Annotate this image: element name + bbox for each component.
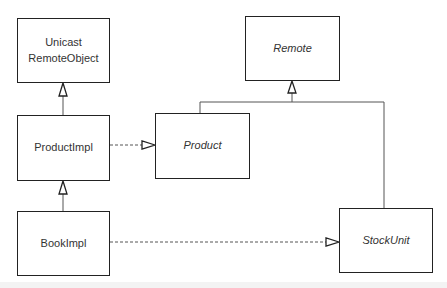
interface-remote[interactable]: Remote [245,16,340,81]
interface-product[interactable]: Product [155,113,250,179]
class-label-line-1: Unicast [28,35,98,51]
class-unicast-remote-object[interactable]: Unicast RemoteObject [17,18,110,83]
class-label: ProductImpl [34,140,93,156]
class-label: Unicast RemoteObject [28,35,98,67]
realization-bookimpl-to-stockunit [110,238,339,246]
class-label-line-2: RemoteObject [28,51,98,67]
bottom-margin [0,282,447,288]
class-label: Product [184,138,222,154]
generalization-productimpl-to-unicast [59,83,67,115]
generalization-bookimpl-to-productimpl [59,181,67,211]
realization-productimpl-to-product [110,141,155,149]
interface-stockunit[interactable]: StockUnit [339,208,433,273]
class-bookimpl[interactable]: BookImpl [17,211,110,276]
class-label: Remote [273,41,312,57]
class-label: StockUnit [362,233,409,249]
class-label: BookImpl [41,236,87,252]
class-productimpl[interactable]: ProductImpl [17,115,110,181]
